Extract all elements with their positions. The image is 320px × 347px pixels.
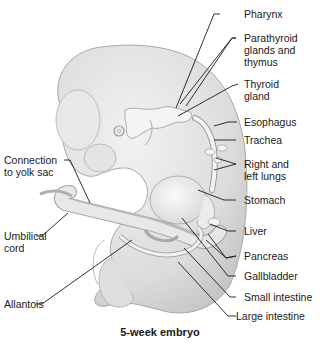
label-liver: Liver <box>244 225 267 237</box>
label-allantois: Allantois <box>4 298 44 310</box>
label-lungs: Right and left lungs <box>244 158 289 182</box>
figure-caption: 5-week embryo <box>0 326 320 338</box>
label-umbilical-cord: Umbilical cord <box>4 230 47 254</box>
label-trachea: Trachea <box>244 134 282 146</box>
label-gallbladder: Gallbladder <box>244 270 298 282</box>
label-pharynx: Pharynx <box>244 8 283 20</box>
label-esophagus: Esophagus <box>244 116 297 128</box>
label-parathyroid-thymus: Parathyroid glands and thymus <box>244 32 298 68</box>
label-connection-yolk-sac: Connection to yolk sac <box>4 154 57 178</box>
embryo-body <box>56 45 247 313</box>
label-thyroid-gland: Thyroid gland <box>244 78 279 102</box>
label-pancreas: Pancreas <box>244 250 288 262</box>
label-large-intestine: Large intestine <box>236 310 305 322</box>
label-small-intestine: Small intestine <box>244 291 312 303</box>
label-stomach: Stomach <box>244 194 285 206</box>
